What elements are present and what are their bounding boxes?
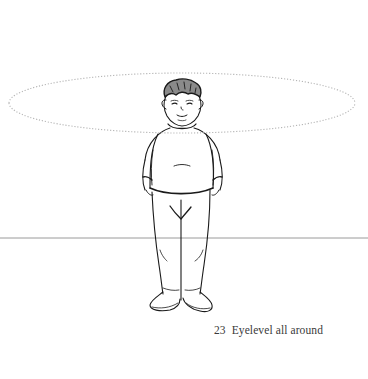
right-shoe-sole <box>186 303 210 309</box>
mouth <box>177 115 187 117</box>
right-cuff <box>213 177 222 180</box>
right-knee-fold <box>195 250 203 261</box>
hair <box>164 79 201 97</box>
left-shoe-sole <box>152 303 178 308</box>
boy-figure <box>143 79 223 312</box>
right-ankle-fold <box>185 288 200 290</box>
left-knee-fold <box>160 250 167 261</box>
right-eye <box>187 103 192 104</box>
sweater-hem <box>150 188 213 194</box>
figure-caption: 23 Eyelevel all around <box>214 324 323 336</box>
right-leg-outer <box>200 190 210 294</box>
head-outline <box>164 96 201 126</box>
right-hand <box>212 190 219 195</box>
document-page: 23 Eyelevel all around <box>0 0 368 379</box>
left-eye <box>172 103 177 104</box>
chin <box>178 120 186 121</box>
left-leg-outer <box>152 192 163 294</box>
belly-line <box>174 165 190 167</box>
right-arm-outer <box>220 160 222 190</box>
nose <box>181 107 183 110</box>
figure-caption-text: Eyelevel all around <box>232 324 323 336</box>
left-ankle-fold <box>163 288 179 290</box>
figure-number: 23 <box>214 324 226 336</box>
left-arm-outer <box>143 160 145 190</box>
right-brow <box>186 100 193 101</box>
left-brow <box>171 100 178 101</box>
figure-illustration <box>0 0 368 379</box>
